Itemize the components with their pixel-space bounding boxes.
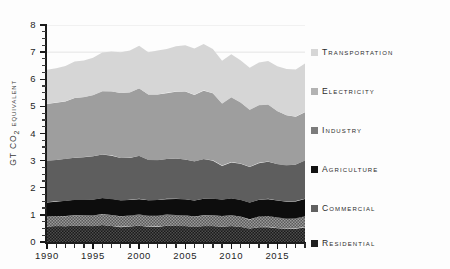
legend-label: Electricity bbox=[322, 86, 375, 96]
y-axis-title-suffix: equivalent bbox=[8, 80, 18, 130]
area-series-residential bbox=[47, 225, 305, 242]
legend-item-residential[interactable]: Residential bbox=[311, 237, 375, 249]
x-axis-minor-tick bbox=[221, 243, 222, 248]
legend-label: Industry bbox=[322, 125, 362, 135]
y-axis-minor-tick bbox=[42, 113, 46, 114]
chart-legend: TransportationElectricityIndustryAgricul… bbox=[311, 27, 449, 242]
y-axis-minor-tick bbox=[42, 92, 46, 93]
x-axis-minor-tick bbox=[166, 243, 167, 248]
legend-label: Transportation bbox=[322, 47, 393, 57]
x-axis-minor-tick bbox=[102, 243, 103, 248]
x-axis-minor-tick bbox=[120, 243, 121, 248]
y-axis-minor-tick bbox=[42, 194, 46, 195]
legend-swatch-icon bbox=[311, 49, 318, 56]
x-axis-tick-label: 2005 bbox=[165, 250, 205, 261]
legend-swatch-icon bbox=[311, 205, 318, 212]
x-axis-minor-tick bbox=[295, 243, 296, 248]
y-axis-tick bbox=[40, 106, 45, 107]
y-axis-minor-tick bbox=[42, 38, 46, 39]
y-axis-tick bbox=[40, 214, 45, 215]
y-axis-tick bbox=[40, 241, 45, 242]
legend-swatch-icon bbox=[311, 240, 318, 247]
y-axis-tick bbox=[40, 24, 45, 25]
x-axis-minor-tick bbox=[65, 243, 66, 248]
y-axis-minor-tick bbox=[42, 65, 46, 66]
legend-item-industry[interactable]: Industry bbox=[311, 124, 362, 136]
legend-item-agriculture[interactable]: Agriculture bbox=[311, 163, 378, 175]
x-axis-tick bbox=[277, 243, 279, 249]
x-axis-tick-label: 2010 bbox=[211, 250, 251, 261]
y-axis-tick-label: 4 bbox=[22, 128, 36, 139]
x-axis-tick-label: 2000 bbox=[119, 250, 159, 261]
x-axis-minor-tick bbox=[175, 243, 176, 248]
y-axis-minor-tick bbox=[42, 99, 46, 100]
x-axis-minor-tick bbox=[240, 243, 241, 248]
legend-label: Commercial bbox=[322, 203, 376, 213]
x-axis-minor-tick bbox=[194, 243, 195, 248]
y-axis-minor-tick bbox=[42, 180, 46, 181]
y-axis-tick-label: 1 bbox=[22, 209, 36, 220]
y-axis-minor-tick bbox=[42, 72, 46, 73]
y-axis-minor-tick bbox=[42, 45, 46, 46]
x-axis-tick bbox=[92, 243, 94, 249]
x-axis-tick bbox=[231, 243, 233, 249]
y-axis-minor-tick bbox=[42, 167, 46, 168]
plot-area bbox=[47, 25, 305, 242]
y-axis-minor-tick bbox=[42, 221, 46, 222]
legend-swatch-icon bbox=[311, 166, 318, 173]
legend-swatch-icon bbox=[311, 127, 318, 134]
y-axis-minor-tick bbox=[42, 201, 46, 202]
y-axis-title-subscript: 2 bbox=[13, 129, 20, 134]
y-axis-tick-label: 3 bbox=[22, 155, 36, 166]
legend-swatch-icon bbox=[311, 88, 318, 95]
legend-label: Agriculture bbox=[322, 164, 378, 174]
y-axis-minor-tick bbox=[42, 58, 46, 59]
y-axis-minor-tick bbox=[42, 235, 46, 236]
x-axis-tick-label: 1995 bbox=[73, 250, 113, 261]
y-axis-minor-tick bbox=[42, 207, 46, 208]
y-axis-tick bbox=[40, 160, 45, 161]
x-axis-minor-tick bbox=[111, 243, 112, 248]
legend-label: Residential bbox=[322, 238, 375, 248]
y-axis-tick-label: 5 bbox=[22, 100, 36, 111]
legend-item-electricity[interactable]: Electricity bbox=[311, 85, 375, 97]
legend-item-transportation[interactable]: Transportation bbox=[311, 46, 393, 58]
y-axis-tick-label: 6 bbox=[22, 73, 36, 84]
x-axis-minor-tick bbox=[304, 243, 305, 248]
x-axis-tick-label: 2015 bbox=[257, 250, 297, 261]
x-axis-minor-tick bbox=[56, 243, 57, 248]
y-axis-minor-tick bbox=[42, 140, 46, 141]
y-axis-minor-tick bbox=[42, 174, 46, 175]
y-axis-minor-tick bbox=[42, 31, 46, 32]
x-axis-minor-tick bbox=[286, 243, 287, 248]
x-axis-minor-tick bbox=[129, 243, 130, 248]
x-axis-minor-tick bbox=[267, 243, 268, 248]
y-axis-tick-label: 7 bbox=[22, 46, 36, 57]
chart-figure: Gt CO2 equivalent 0123456781990199520002… bbox=[0, 0, 450, 269]
y-axis-tick bbox=[40, 133, 45, 134]
area-series-industry bbox=[47, 155, 305, 203]
x-axis-minor-tick bbox=[249, 243, 250, 248]
y-axis-tick-label: 2 bbox=[22, 182, 36, 193]
x-axis-tick bbox=[138, 243, 140, 249]
x-axis-minor-tick bbox=[212, 243, 213, 248]
x-axis-minor-tick bbox=[148, 243, 149, 248]
y-axis-tick bbox=[40, 51, 45, 52]
x-axis-minor-tick bbox=[157, 243, 158, 248]
x-axis-tick bbox=[46, 243, 48, 249]
y-axis-minor-tick bbox=[42, 119, 46, 120]
y-axis-minor-tick bbox=[42, 146, 46, 147]
x-axis-tick bbox=[185, 243, 187, 249]
y-axis-minor-tick bbox=[42, 126, 46, 127]
x-axis-minor-tick bbox=[83, 243, 84, 248]
y-axis-title-prefix: Gt CO bbox=[8, 134, 18, 165]
y-axis-tick-label: 8 bbox=[22, 19, 36, 30]
y-axis-minor-tick bbox=[42, 153, 46, 154]
legend-item-commercial[interactable]: Commercial bbox=[311, 202, 376, 214]
x-axis-minor-tick bbox=[74, 243, 75, 248]
x-axis-minor-tick bbox=[203, 243, 204, 248]
y-axis-tick-label: 0 bbox=[22, 236, 36, 247]
x-axis-tick-label: 1990 bbox=[27, 250, 67, 261]
y-axis-minor-tick bbox=[42, 228, 46, 229]
y-axis-tick bbox=[40, 187, 45, 188]
